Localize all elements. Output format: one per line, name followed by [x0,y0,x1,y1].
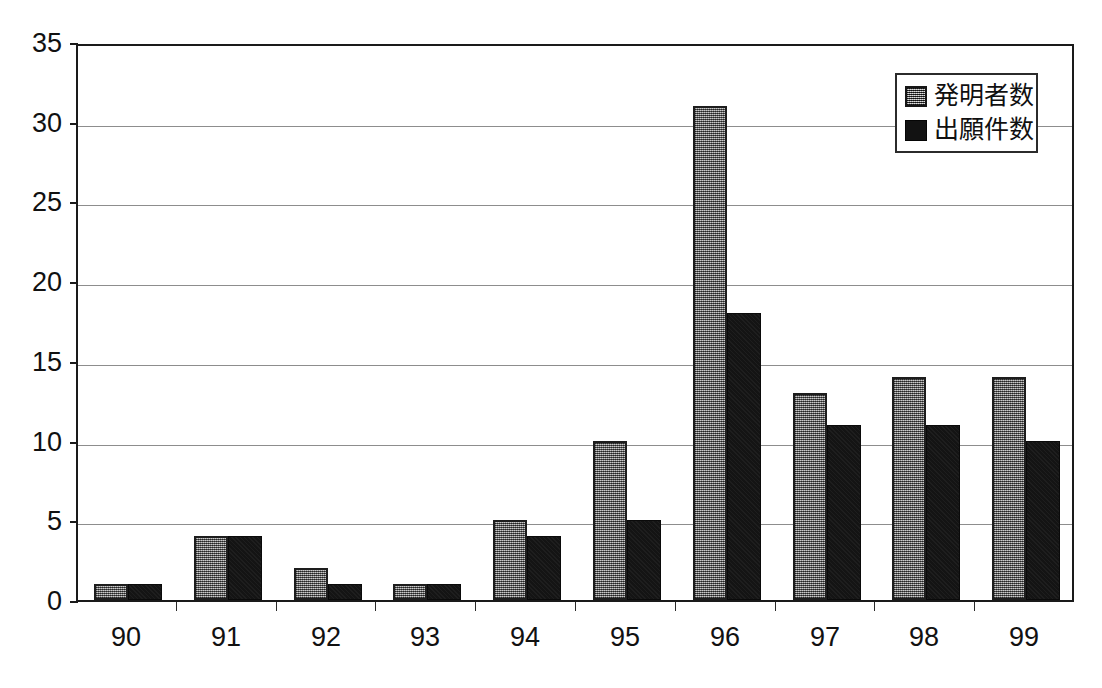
x-tick-label-93: 93 [375,622,475,652]
y-tick-label-25: 25 [0,189,62,216]
x-tick-label-98: 98 [874,622,974,652]
legend-item-1: 出願件数 [905,115,1029,145]
legend-label-inventors: 発明者数 [934,83,1034,109]
bar-96-series-0 [693,106,727,600]
bar-95-series-1 [627,520,661,600]
y-tick-label-30: 30 [0,110,62,137]
bar-95-series-0 [593,441,627,600]
x-tick-mark-2 [276,602,277,611]
bar-97-series-1 [827,425,861,600]
legend-swatch-icon-inventors [905,86,927,107]
legend: 発明者数 出願件数 [895,73,1038,153]
y-tick-label-0: 0 [0,588,62,615]
bar-90-series-1 [128,584,162,600]
gridline-15 [78,365,1072,366]
bar-91-series-0 [194,536,228,600]
x-tick-label-92: 92 [276,622,376,652]
bar-90-series-0 [94,584,128,600]
x-tick-mark-6 [675,602,676,611]
x-tick-mark-3 [375,602,376,611]
y-tick-label-10: 10 [0,429,62,456]
bar-92-series-0 [294,568,328,600]
legend-swatch-icon-applications [905,120,927,141]
x-tick-label-91: 91 [176,622,276,652]
x-tick-label-94: 94 [475,622,575,652]
bar-99-series-0 [992,377,1026,600]
y-tick-label-5: 5 [0,508,62,535]
bar-96-series-1 [727,313,761,600]
bar-chart: 05101520253035 90919293949596979899 発明者数… [0,0,1102,688]
x-tick-label-90: 90 [76,622,176,652]
legend-item-0: 発明者数 [905,81,1029,111]
x-tick-label-96: 96 [675,622,775,652]
bar-99-series-1 [1026,441,1060,600]
x-tick-label-99: 99 [974,622,1074,652]
gridline-20 [78,285,1072,286]
bar-91-series-1 [228,536,262,600]
bar-93-series-1 [427,584,461,600]
x-tick-label-95: 95 [575,622,675,652]
gridline-25 [78,205,1072,206]
x-tick-mark-4 [475,602,476,611]
x-tick-mark-8 [874,602,875,611]
bar-94-series-1 [527,536,561,600]
bar-98-series-0 [892,377,926,600]
x-tick-mark-1 [176,602,177,611]
x-tick-mark-5 [575,602,576,611]
legend-label-applications: 出願件数 [934,117,1034,143]
bar-98-series-1 [926,425,960,600]
bar-97-series-0 [793,393,827,600]
bar-92-series-1 [328,584,362,600]
x-tick-mark-7 [775,602,776,611]
y-tick-label-35: 35 [0,30,62,57]
x-tick-mark-9 [974,602,975,611]
x-tick-label-97: 97 [775,622,875,652]
bar-94-series-0 [493,520,527,600]
bar-93-series-0 [393,584,427,600]
y-tick-label-15: 15 [0,349,62,376]
y-tick-label-20: 20 [0,269,62,296]
